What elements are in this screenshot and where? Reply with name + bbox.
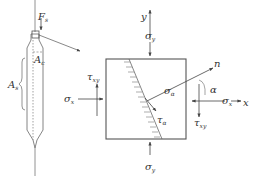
sigma-y-bottom-label: σy (145, 161, 156, 174)
y-axis-label: y (140, 11, 147, 22)
sigma-alpha-label: σα (164, 85, 175, 97)
tau-xy-left-label: τxy (87, 71, 100, 84)
specimen (19, 0, 80, 176)
sigma-x-right-label: σx (222, 95, 233, 107)
x-axis-label: x (243, 97, 249, 108)
angle-label: α (210, 84, 217, 95)
side-area-label: As (7, 79, 18, 91)
sigma-x-left-label: σx (64, 93, 75, 105)
stress-diagram: Fs Ac As (0, 0, 253, 176)
stress-element (78, 10, 241, 155)
angle-arc (199, 80, 205, 95)
tau-alpha-label: τα (157, 114, 167, 126)
normal-label: n (214, 58, 220, 69)
tau-xy-right-label: τxy (194, 117, 207, 130)
element-marker (32, 31, 39, 38)
normal-vector (147, 68, 213, 101)
sigma-y-top-label: σy (145, 30, 156, 43)
hatching (124, 62, 160, 137)
brace (19, 58, 25, 110)
force-label: Fs (37, 11, 48, 23)
